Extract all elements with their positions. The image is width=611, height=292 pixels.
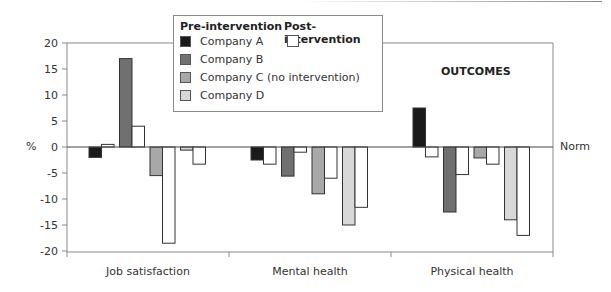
y-tick-label: 5 (51, 115, 58, 128)
legend-swatch-company-c (180, 72, 191, 83)
y-tick-label: 10 (44, 89, 58, 102)
bar (505, 147, 518, 220)
y-tick-label: -15 (40, 219, 58, 232)
bar (312, 147, 325, 194)
bar (474, 147, 487, 158)
y-tick-label: 15 (44, 63, 58, 76)
bar (193, 147, 206, 164)
bar (343, 147, 356, 225)
y-axis-unit-label: % (26, 140, 36, 153)
legend-label-company-d: Company D (200, 89, 264, 102)
bar (413, 108, 426, 147)
bar (264, 147, 277, 164)
bar (163, 147, 176, 243)
bar (282, 147, 295, 176)
chart-title: OUTCOMES (441, 65, 511, 78)
legend-label-company-c: Company C (no intervention) (200, 71, 360, 84)
legend-swatch-company-b (180, 54, 191, 65)
y-tick-label: -10 (40, 193, 58, 206)
bar (444, 147, 457, 212)
y-tick-label: -20 (40, 245, 58, 258)
bar (132, 126, 145, 147)
bar (89, 147, 102, 157)
bar (120, 59, 133, 147)
bar (294, 147, 307, 152)
y-tick-label: -5 (47, 167, 58, 180)
x-category-label: Job satisfaction (105, 265, 190, 278)
bar (426, 147, 439, 157)
y-tick-label: 0 (51, 141, 58, 154)
bar (517, 147, 530, 235)
legend-label-company-b: Company B (200, 53, 263, 66)
legend-label-company-a: Company A (200, 35, 263, 48)
x-category-label: Physical health (430, 265, 513, 278)
bar (251, 147, 264, 160)
legend-pre-header: Pre-intervention (180, 20, 282, 33)
bar (456, 147, 469, 175)
legend-item-company-d: Company D (180, 88, 264, 102)
legend-swatch-company-a (180, 36, 191, 47)
norm-label: Norm (560, 140, 590, 153)
legend-swatch-company-d (180, 90, 191, 101)
bar (150, 147, 163, 176)
legend-item-company-c: Company C (no intervention) (180, 70, 360, 84)
legend-item-company-b: Company B (180, 52, 263, 66)
bar (325, 147, 338, 178)
bar (487, 147, 500, 164)
bar (355, 147, 368, 207)
legend: Pre-intervention Post-intervention Compa… (173, 15, 383, 112)
legend-item-post (287, 34, 308, 48)
y-tick-label: 20 (44, 37, 58, 50)
x-category-label: Mental health (272, 265, 348, 278)
legend-swatch-post (287, 35, 299, 47)
legend-item-company-a: Company A (180, 34, 263, 48)
